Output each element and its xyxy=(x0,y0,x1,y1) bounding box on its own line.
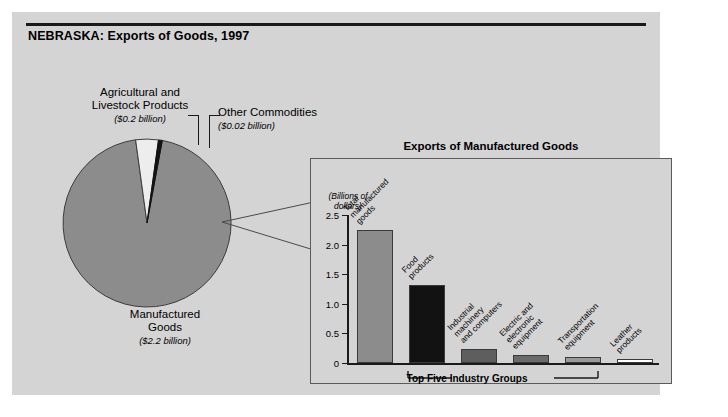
pie-label-agricultural: Agricultural and Livestock Products ($0.… xyxy=(78,86,202,125)
category-label: Leatherproducts xyxy=(608,320,643,355)
inset-chart-panel: (Billions of dollars) 00.51.01.52.02.5 T… xyxy=(310,158,672,384)
y-axis-tick xyxy=(342,304,347,305)
bar-chart-plot-area: 00.51.01.52.02.5 TotalmanufacturedgoodsF… xyxy=(347,215,659,363)
bar xyxy=(617,359,653,363)
bracket-label: Top Five Industry Groups xyxy=(311,373,623,384)
inset-chart-title: Exports of Manufactured Goods xyxy=(310,140,672,152)
other-commodities-leader-vertical xyxy=(209,115,210,148)
title-divider xyxy=(26,23,646,26)
y-axis-line xyxy=(347,215,349,363)
y-axis-tick-label: 2.0 xyxy=(326,239,339,250)
pie-label-agricultural-line1: Agricultural and xyxy=(100,86,180,98)
pie-label-manufactured-goods: Manufactured Goods ($2.2 billion) xyxy=(104,308,226,347)
pie-label-other-commodities-text: Other Commodities xyxy=(218,106,317,118)
y-axis-tick-label: 1.5 xyxy=(326,269,339,280)
bar xyxy=(409,285,445,363)
y-axis-tick xyxy=(342,274,347,275)
category-label: Foodproducts xyxy=(400,246,435,281)
figure-panel: NEBRASKA: Exports of Goods, 1997 Agricul… xyxy=(12,12,660,395)
bar xyxy=(513,355,549,363)
category-label: Totalmanufacturedgoods xyxy=(342,171,397,226)
bar xyxy=(461,349,497,363)
pie-label-other-commodities: Other Commodities ($0.02 billion) xyxy=(218,106,358,132)
y-axis-tick xyxy=(342,215,347,216)
pie-label-manufactured-line1: Manufactured xyxy=(130,308,200,320)
y-axis-tick xyxy=(342,363,347,364)
pie-label-other-commodities-amount: ($0.02 billion) xyxy=(218,119,358,132)
pie-label-manufactured-line2: Goods xyxy=(148,321,182,333)
y-axis-tick-label: 0 xyxy=(334,358,339,369)
pie-label-agricultural-line2: Livestock Products xyxy=(92,99,189,111)
pie-label-manufactured-amount: ($2.2 billion) xyxy=(104,334,226,347)
category-label: Industrialmachineryand computers xyxy=(446,287,504,345)
category-label: Transportationequipment xyxy=(556,302,606,352)
category-label: Electric andelectronicequipment xyxy=(498,302,548,352)
pie-to-inset-connector xyxy=(222,200,314,252)
x-axis-line xyxy=(347,363,659,365)
y-axis-tick-label: 1.0 xyxy=(326,298,339,309)
pie-chart xyxy=(62,138,232,308)
bar xyxy=(565,357,601,364)
y-axis-tick xyxy=(342,333,347,334)
y-axis-tick-label: 2.5 xyxy=(326,210,339,221)
y-axis-tick xyxy=(342,245,347,246)
page-title: NEBRASKA: Exports of Goods, 1997 xyxy=(28,29,249,43)
pie-label-agricultural-amount: ($0.2 billion) xyxy=(78,112,202,125)
bar xyxy=(357,230,393,363)
y-axis-tick-label: 0.5 xyxy=(326,328,339,339)
pie-chart-svg xyxy=(62,138,232,308)
